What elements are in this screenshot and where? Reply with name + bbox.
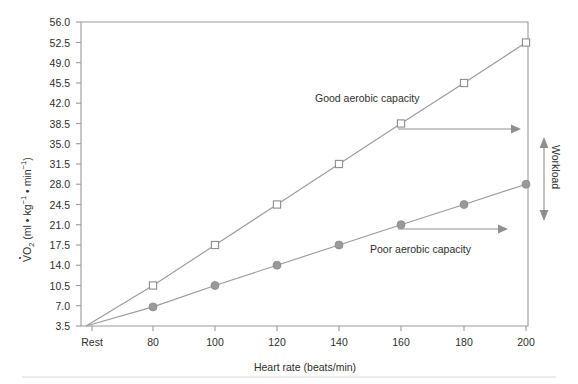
y-tick-label: 7.0 bbox=[30, 301, 70, 312]
chart-figure: 3.5 7.0 10.5 14.0 17.5 21.0 24.5 28.0 31… bbox=[0, 0, 578, 384]
data-point-marker bbox=[460, 79, 467, 86]
data-point-marker bbox=[273, 261, 281, 269]
y-tick-label: 35.0 bbox=[30, 139, 70, 150]
y-axis-title-mid: • min bbox=[21, 169, 33, 195]
y-tick-label: 3.5 bbox=[30, 321, 70, 332]
series-label-poor-aerobic-capacity: Poor aerobic capacity bbox=[370, 244, 471, 255]
data-point-marker bbox=[522, 39, 529, 46]
y-tick-label: 45.5 bbox=[30, 78, 70, 89]
y-tick-label: 49.0 bbox=[30, 58, 70, 69]
y-tick-label: 56.0 bbox=[30, 17, 70, 28]
x-axis-ticks bbox=[92, 326, 526, 331]
v-dot-accent: V bbox=[22, 255, 33, 262]
data-point-marker bbox=[335, 160, 342, 167]
y-tick-label: 10.5 bbox=[30, 281, 70, 292]
data-point-marker bbox=[149, 282, 156, 289]
data-point-marker bbox=[335, 241, 343, 249]
y-tick-label: 14.0 bbox=[30, 260, 70, 271]
y-tick-label: 38.5 bbox=[30, 119, 70, 130]
x-axis-title: Heart rate (beats/min) bbox=[185, 362, 425, 373]
plot-frame bbox=[81, 22, 528, 326]
y-tick-label: 52.5 bbox=[30, 38, 70, 49]
y-tick-label: 42.0 bbox=[30, 98, 70, 109]
series-good-aerobic-capacity bbox=[86, 39, 530, 326]
y-axis-title-sup1: −1 bbox=[19, 196, 28, 205]
poor-capacity-direction-arrow-icon bbox=[398, 225, 508, 234]
x-tick-label: 180 bbox=[439, 337, 489, 348]
x-tick-label: 140 bbox=[314, 337, 364, 348]
y-axis-title-sup2: −1 bbox=[19, 161, 28, 170]
chart-canvas bbox=[0, 0, 578, 384]
x-tick-label: 100 bbox=[190, 337, 240, 348]
data-point-marker bbox=[397, 221, 405, 229]
y-tick-label: 24.5 bbox=[30, 200, 70, 211]
x-tick-label: Rest bbox=[67, 337, 117, 348]
y-axis-title: VO2 (ml • kg−1 • min−1) bbox=[20, 157, 35, 262]
data-point-marker bbox=[522, 180, 530, 188]
data-point-marker bbox=[211, 241, 218, 248]
y-tick-label: 17.5 bbox=[30, 240, 70, 251]
y-tick-label: 21.0 bbox=[30, 220, 70, 231]
workload-label: Workload bbox=[551, 145, 562, 189]
data-point-marker bbox=[460, 201, 468, 209]
x-tick-label: 160 bbox=[376, 337, 426, 348]
workload-arrow-icon bbox=[540, 137, 549, 221]
y-tick-label: 31.5 bbox=[30, 159, 70, 170]
data-point-marker bbox=[149, 303, 157, 311]
x-tick-label: 80 bbox=[128, 337, 178, 348]
y-tick-label: 28.0 bbox=[30, 179, 70, 190]
y-axis-title-o: O bbox=[21, 247, 33, 255]
y-axis-title-close: ) bbox=[21, 157, 33, 161]
data-point-marker bbox=[211, 282, 219, 290]
x-tick-label: 200 bbox=[501, 337, 551, 348]
data-point-marker bbox=[273, 201, 280, 208]
good-capacity-direction-arrow-icon bbox=[398, 125, 521, 134]
y-axis-title-open: (ml • kg bbox=[21, 204, 33, 242]
y-axis-ticks bbox=[76, 22, 81, 326]
series-label-good-aerobic-capacity: Good aerobic capacity bbox=[315, 93, 419, 104]
data-point-marker bbox=[397, 120, 404, 127]
x-tick-label: 120 bbox=[252, 337, 302, 348]
y-axis-title-sub2: 2 bbox=[27, 243, 36, 247]
